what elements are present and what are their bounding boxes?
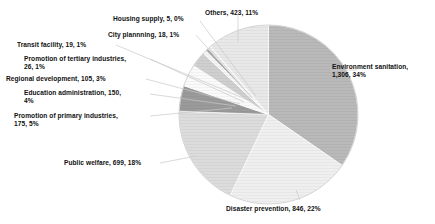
slice-label-others: Others, 423, 11% xyxy=(205,9,258,17)
slice-label-disaster-prevention: Disaster prevention, 846, 22% xyxy=(226,205,321,213)
slice-label-education-administration: Education administration, 150, 4% xyxy=(24,89,121,105)
slice-label-city-planning: City plannning, 18, 1% xyxy=(108,31,179,39)
leader-line xyxy=(160,156,196,163)
slice-label-public-welfare: Public welfare, 699, 18% xyxy=(64,159,141,167)
slice-label-promotion-of-tertiary-industries: Promotion of tertiary industries, 26, 1% xyxy=(24,55,126,71)
slice-label-environment-sanitation: Environment sanitation, 1,306, 34% xyxy=(332,63,408,79)
slice-label-transit-facility: Transit facility, 19, 1% xyxy=(17,41,86,49)
slice-label-regional-development: Regional development, 105, 3% xyxy=(6,75,106,83)
slice-label-housing-supply: Housing supply, 5, 0% xyxy=(113,15,184,23)
pie-chart: Environment sanitation, 1,306, 34% Disas… xyxy=(0,0,435,224)
slice-label-promotion-of-primary-industries: Promotion of primary industries, 175, 5% xyxy=(14,112,118,128)
